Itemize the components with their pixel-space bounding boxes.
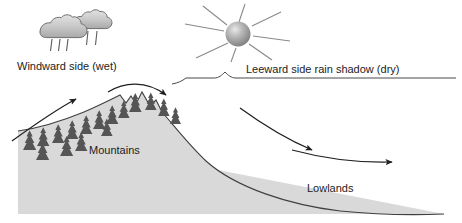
label-leeward-side: Leeward side rain shadow (dry) bbox=[246, 63, 399, 75]
label-windward-side: Windward side (wet) bbox=[17, 60, 117, 72]
label-lowlands: Lowlands bbox=[307, 182, 353, 194]
terrain-shape bbox=[18, 92, 444, 215]
sun-icon bbox=[185, 4, 290, 62]
diagram-canvas bbox=[0, 0, 462, 223]
rain-cloud-icon bbox=[40, 10, 112, 51]
label-mountains: Mountains bbox=[89, 144, 140, 156]
sun-disc bbox=[226, 22, 251, 47]
rain-shadow-diagram: Windward side (wet) Leeward side rain sh… bbox=[0, 0, 462, 223]
